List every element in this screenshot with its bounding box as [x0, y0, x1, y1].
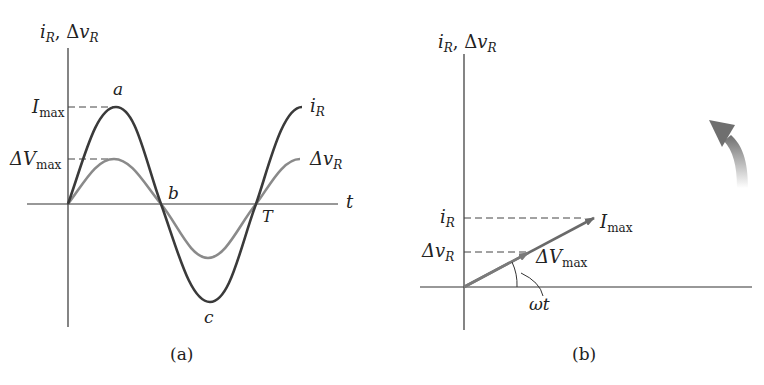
vR-tick-label: ΔvR	[421, 240, 454, 264]
panel-a-waveforms: iR, ΔvR Imax ΔVmax a b c T t iR ΔvR (a)	[9, 21, 354, 364]
voltage-curve-label: ΔvR	[309, 148, 342, 172]
panel-b-phasor: iR, ΔvR iR ΔvR Imax ΔVmax ωt (b)	[420, 31, 752, 364]
angle-label: ωt	[529, 294, 550, 314]
y-axis-label: iR, ΔvR	[438, 31, 496, 55]
iR-tick-label: iR	[440, 206, 455, 230]
current-curve-label: iR	[310, 95, 325, 119]
point-c-label: c	[204, 307, 214, 327]
vmax-phasor	[464, 253, 528, 287]
y-axis-label: iR, ΔvR	[40, 21, 98, 45]
vmax-phasor-label: ΔVmax	[535, 246, 588, 270]
imax-phasor-label: Imax	[599, 211, 633, 235]
angle-leader	[521, 273, 543, 296]
ac-resistor-diagram: iR, ΔvR Imax ΔVmax a b c T t iR ΔvR (a)	[0, 0, 764, 385]
rotation-arrow-icon	[709, 120, 748, 188]
point-a-label: a	[113, 79, 123, 99]
vmax-label: ΔVmax	[9, 148, 62, 172]
imax-label: Imax	[31, 96, 65, 120]
x-axis-label: t	[346, 191, 354, 212]
caption-b: (b)	[572, 344, 596, 364]
point-b-label: b	[168, 183, 179, 203]
point-T-label: T	[262, 207, 274, 226]
caption-a: (a)	[170, 344, 193, 364]
angle-arc	[512, 262, 517, 287]
